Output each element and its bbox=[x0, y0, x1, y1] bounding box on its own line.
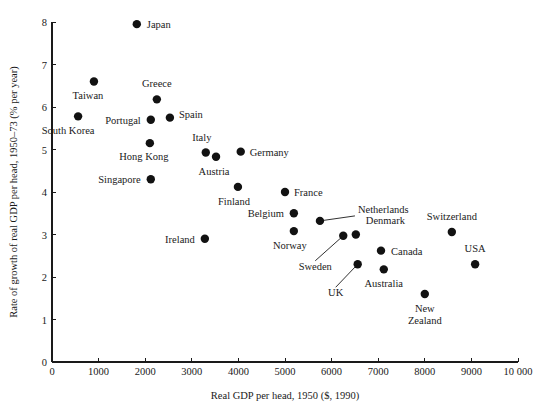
x-tick-label-5: 5000 bbox=[275, 366, 296, 377]
point-label-italy: Italy bbox=[192, 132, 212, 143]
data-point-japan bbox=[133, 20, 141, 28]
data-point-portugal bbox=[147, 116, 155, 124]
point-label-greece: Greece bbox=[142, 78, 172, 89]
chart-leader-lines bbox=[315, 216, 357, 287]
point-label-australia: Australia bbox=[365, 278, 404, 289]
data-point-switzerland bbox=[448, 228, 456, 236]
leader-line-netherlands bbox=[320, 216, 355, 221]
data-point-new-zealand bbox=[421, 290, 429, 298]
point-label-uk: UK bbox=[328, 287, 344, 298]
leader-line-sweden bbox=[315, 236, 343, 261]
y-axis-title: Rate of growth of real GDP per head, 195… bbox=[8, 66, 20, 318]
x-tick-label-7: 7000 bbox=[368, 366, 389, 377]
data-point-finland bbox=[234, 183, 242, 191]
data-point-sweden bbox=[339, 232, 347, 240]
x-tick-label-6: 6000 bbox=[321, 366, 342, 377]
point-label-usa: USA bbox=[465, 243, 486, 254]
point-label-hong-kong: Hong Kong bbox=[119, 151, 169, 162]
point-label-portugal: Portugal bbox=[105, 115, 141, 126]
point-label-belgium: Belgium bbox=[248, 208, 284, 219]
point-label-new-zealand: NewZealand bbox=[408, 303, 443, 326]
x-axis-title: Real GDP per head, 1950 ($, 1990) bbox=[211, 390, 360, 402]
x-tick-label-3: 3000 bbox=[181, 366, 202, 377]
data-point-spain bbox=[166, 113, 174, 121]
data-point-taiwan bbox=[90, 77, 98, 85]
y-tick-label-0: 0 bbox=[42, 357, 47, 368]
point-label-japan: Japan bbox=[147, 19, 172, 30]
point-label-denmark: Denmark bbox=[366, 215, 406, 226]
y-tick-label-5: 5 bbox=[42, 145, 47, 156]
point-label-norway: Norway bbox=[273, 240, 308, 251]
scatter-chart-figure: 010002000300040005000600070008000900010 … bbox=[0, 0, 535, 419]
x-tick-label-9: 9000 bbox=[461, 366, 482, 377]
y-tick-label-6: 6 bbox=[42, 102, 47, 113]
y-tick-label-8: 8 bbox=[42, 17, 47, 28]
point-label-austria: Austria bbox=[199, 166, 230, 177]
point-label-sweden: Sweden bbox=[299, 261, 333, 272]
point-label-switzerland: Switzerland bbox=[427, 211, 478, 222]
data-point-france bbox=[281, 188, 289, 196]
point-label-france: France bbox=[294, 187, 323, 198]
y-tick-label-7: 7 bbox=[42, 60, 47, 71]
data-point-hong-kong bbox=[146, 139, 154, 147]
data-point-ireland bbox=[201, 235, 209, 243]
point-label-singapore: Singapore bbox=[98, 174, 141, 185]
data-point-netherlands bbox=[316, 217, 324, 225]
x-tick-label-2: 2000 bbox=[135, 366, 156, 377]
chart-point-labels: JapanTaiwanGreecePortugalSpainSouth Kore… bbox=[42, 19, 486, 326]
x-tick-label-4: 4000 bbox=[228, 366, 249, 377]
data-point-canada bbox=[377, 246, 385, 254]
data-point-belgium bbox=[290, 209, 298, 217]
data-point-singapore bbox=[147, 175, 155, 183]
point-label-ireland: Ireland bbox=[165, 234, 195, 245]
chart-tick-labels: 010002000300040005000600070008000900010 … bbox=[42, 17, 533, 377]
point-label-netherlands: Netherlands bbox=[358, 204, 409, 215]
point-label-spain: Spain bbox=[179, 109, 204, 120]
x-tick-label-0: 0 bbox=[49, 366, 54, 377]
data-point-germany bbox=[237, 147, 245, 155]
chart-canvas: 010002000300040005000600070008000900010 … bbox=[0, 0, 535, 419]
data-point-greece bbox=[153, 95, 161, 103]
data-point-usa bbox=[471, 260, 479, 268]
x-tick-label-1: 1000 bbox=[88, 366, 109, 377]
y-tick-label-1: 1 bbox=[42, 315, 47, 326]
y-tick-label-3: 3 bbox=[42, 230, 47, 241]
data-point-denmark bbox=[352, 230, 360, 238]
x-tick-label-10: 10 000 bbox=[504, 366, 533, 377]
point-label-finland: Finland bbox=[218, 196, 251, 207]
x-tick-label-8: 8000 bbox=[414, 366, 435, 377]
y-tick-label-2: 2 bbox=[42, 272, 47, 283]
data-point-norway bbox=[290, 227, 298, 235]
data-point-australia bbox=[380, 265, 388, 273]
point-label-canada: Canada bbox=[391, 246, 423, 257]
point-label-germany: Germany bbox=[250, 147, 290, 158]
leader-line-uk bbox=[336, 264, 358, 287]
point-label-south-korea: South Korea bbox=[42, 125, 95, 136]
data-point-italy bbox=[202, 148, 210, 156]
data-point-south-korea bbox=[74, 112, 82, 120]
data-point-austria bbox=[212, 153, 220, 161]
point-label-taiwan: Taiwan bbox=[73, 90, 105, 101]
y-tick-label-4: 4 bbox=[42, 187, 48, 198]
data-point-uk bbox=[353, 260, 361, 268]
